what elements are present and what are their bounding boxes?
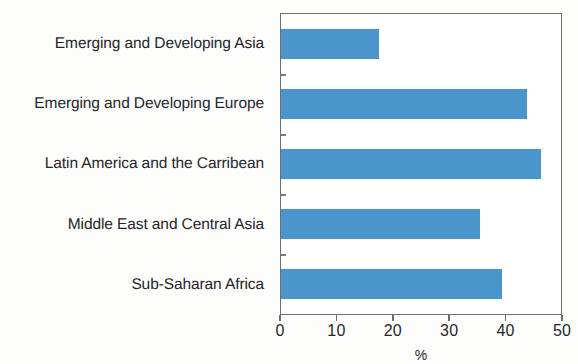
- category-axis-tick: [281, 134, 286, 136]
- bar-chart-figure: Emerging and Developing Asia Emerging an…: [0, 0, 578, 364]
- value-axis-tick-label: 50: [553, 322, 571, 340]
- bar: [281, 29, 379, 59]
- category-label-slot: Latin America and the Carribean: [0, 134, 272, 194]
- value-axis-tick-label: 40: [496, 322, 514, 340]
- value-axis-tick-label: 20: [384, 322, 402, 340]
- bar-slot: [281, 14, 561, 74]
- bar-slot: [281, 254, 561, 314]
- value-axis-tick-label: 10: [327, 322, 345, 340]
- value-axis-tick: [392, 315, 394, 321]
- value-axis-tick: [336, 315, 338, 321]
- category-axis-tick: [281, 74, 286, 76]
- bar-slot: [281, 194, 561, 254]
- value-axis-tick: [448, 315, 450, 321]
- category-label-slot: Emerging and Developing Europe: [0, 73, 272, 133]
- bar: [281, 269, 502, 299]
- bar: [281, 89, 527, 119]
- category-axis-tick: [281, 194, 286, 196]
- value-axis-tick-label: 0: [275, 322, 284, 340]
- bar-slot: [281, 74, 561, 134]
- value-axis-tick-label: 30: [440, 322, 458, 340]
- category-label: Middle East and Central Asia: [68, 216, 264, 233]
- category-label-slot: Middle East and Central Asia: [0, 194, 272, 254]
- category-label: Emerging and Developing Europe: [34, 95, 264, 112]
- category-label: Emerging and Developing Asia: [55, 35, 264, 52]
- value-axis-title: %: [415, 347, 427, 363]
- value-axis-tick: [561, 315, 563, 321]
- value-axis: 01020304050 %: [280, 315, 562, 364]
- bars-layer: [281, 14, 561, 314]
- bar: [281, 209, 480, 239]
- category-label: Sub-Saharan Africa: [131, 276, 264, 293]
- value-axis-tick: [279, 315, 281, 321]
- value-axis-tick: [505, 315, 507, 321]
- category-label-slot: Emerging and Developing Asia: [0, 13, 272, 73]
- bar: [281, 149, 541, 179]
- category-label-slot: Sub-Saharan Africa: [0, 255, 272, 315]
- category-axis-tick: [281, 254, 286, 256]
- category-axis: Emerging and Developing Asia Emerging an…: [0, 13, 272, 315]
- plot-area: [280, 13, 562, 315]
- category-label: Latin America and the Carribean: [45, 155, 264, 172]
- bar-slot: [281, 134, 561, 194]
